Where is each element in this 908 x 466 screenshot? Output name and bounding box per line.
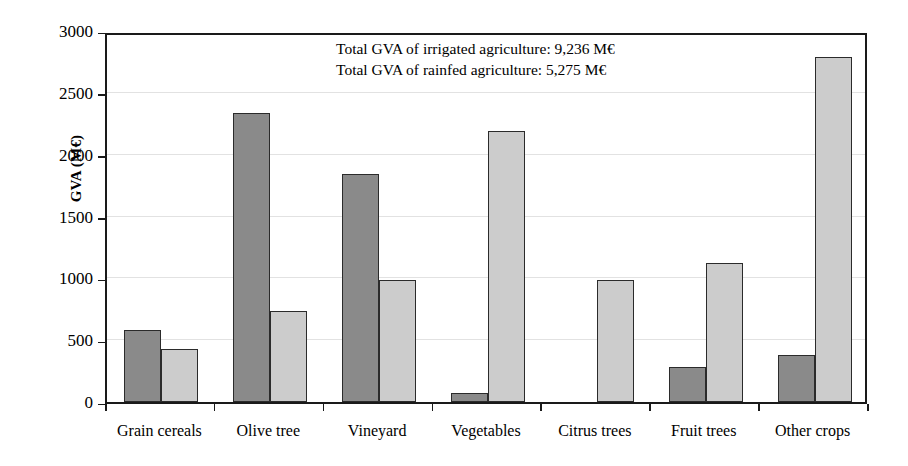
y-axis-tick-label: 0 [85,393,94,413]
y-axis-tick-label: 1500 [59,208,93,228]
bar [270,311,307,403]
x-axis-category-label: Olive tree [237,422,301,440]
bar [669,367,706,402]
y-axis-tick-label: 1000 [59,269,93,289]
x-axis-category-label: Vegetables [451,422,520,440]
bar [379,280,416,402]
y-axis-tick-mark [98,404,105,406]
y-axis-tick-mark [98,342,105,344]
x-axis-category-label: Citrus trees [558,422,631,440]
bar [342,174,379,402]
chart-figure: GVA (M€) 050010001500200025003000 Grain … [0,0,908,466]
y-axis-tick-label: 3000 [59,22,93,42]
bar [706,263,743,402]
x-axis-category-label: Vineyard [348,422,407,440]
y-axis-tick-mark [98,33,105,35]
x-axis-tick-mark [649,404,651,411]
y-axis-tick-mark [98,156,105,158]
y-axis-tick-group: 050010001500200025003000 [0,0,105,466]
y-axis-tick-label: 2000 [59,146,93,166]
x-axis-category-label: Fruit trees [671,422,736,440]
bar-group-container [107,35,865,402]
annotation-line: Total GVA of rainfed agriculture: 5,275 … [336,59,615,80]
x-axis-tick-mark [758,404,760,411]
y-axis-tick-mark [98,218,105,220]
x-axis-tick-mark [323,404,325,411]
annotation-line: Total GVA of irrigated agriculture: 9,23… [336,38,615,59]
bar [124,330,161,402]
y-axis-tick-mark [98,280,105,282]
bar [778,355,815,402]
x-axis-tick-mark [867,404,869,411]
bar [161,349,198,402]
x-axis-category-label: Grain cereals [117,422,202,440]
x-axis-tick-mark [540,404,542,411]
y-axis-tick-mark [98,94,105,96]
x-axis-tick-group: Grain cerealsOlive treeVineyardVegetable… [105,404,867,464]
bar [488,131,525,402]
bar [233,113,270,402]
x-axis-category-label: Other crops [775,422,850,440]
x-axis-tick-mark [105,404,107,411]
plot-area [105,33,867,404]
y-axis-tick-label: 500 [68,331,94,351]
bar [815,57,852,402]
bar [597,280,634,402]
y-axis-tick-label: 2500 [59,84,93,104]
annotation-text-block: Total GVA of irrigated agriculture: 9,23… [336,38,615,80]
x-axis-tick-mark [432,404,434,411]
bar [451,393,488,402]
x-axis-tick-mark [214,404,216,411]
